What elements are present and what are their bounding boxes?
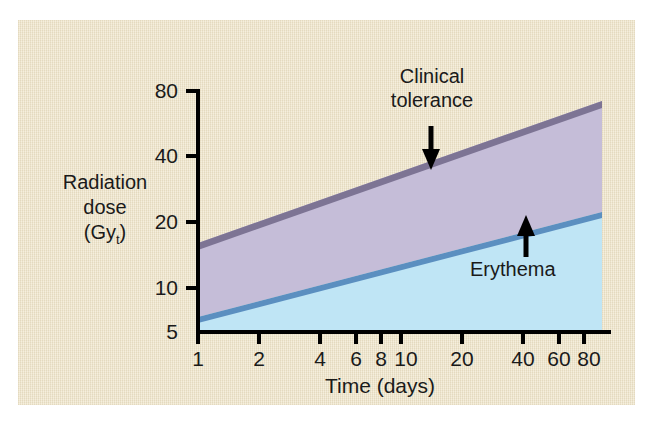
x-tick-label-60: 60 [542, 347, 576, 371]
y-tick-label-80: 80 [132, 79, 178, 103]
annotation-clinical-line1: Clinical [362, 64, 502, 88]
y-axis-title: Radiation dose (Gyt) [30, 170, 180, 252]
annotation-clinical-line2: tolerance [362, 88, 502, 112]
x-axis-title: Time (days) [265, 374, 495, 398]
x-tick-label-4: 4 [305, 347, 335, 371]
figure-canvas: 80 40 20 10 5 1 2 4 6 8 10 20 40 60 80 R… [0, 0, 653, 436]
y-axis-title-line1: Radiation [30, 170, 180, 195]
annotation-erythema: Erythema [470, 258, 620, 281]
y-tick-label-5: 5 [132, 320, 178, 344]
y-tick-label-40: 40 [132, 144, 178, 168]
x-tick-label-2: 2 [244, 347, 274, 371]
x-tick-label-40: 40 [506, 347, 540, 371]
x-tick-label-20: 20 [445, 347, 479, 371]
y-tick-label-10: 10 [132, 276, 178, 300]
y-axis-unit-close: ) [120, 221, 127, 243]
y-axis-unit-main: (Gy [84, 221, 116, 243]
x-tick-label-1: 1 [183, 347, 213, 371]
annotation-clinical-tolerance: Clinical tolerance [362, 64, 502, 112]
x-tick-label-10: 10 [389, 347, 423, 371]
y-axis-title-line2: dose [30, 195, 180, 220]
y-axis-title-unit: (Gyt) [30, 220, 180, 252]
x-tick-label-80: 80 [572, 347, 606, 371]
